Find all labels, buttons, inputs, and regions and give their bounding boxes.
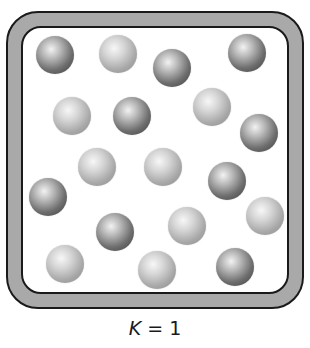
light-sphere-icon: [46, 245, 84, 283]
k-symbol: K: [129, 317, 141, 339]
dark-sphere-icon: [228, 34, 266, 72]
equilibrium-constant-label: K = 1: [0, 317, 310, 339]
dark-sphere-icon: [29, 178, 67, 216]
dark-sphere-icon: [153, 49, 191, 87]
light-sphere-icon: [99, 35, 137, 73]
dark-sphere-icon: [216, 248, 254, 286]
light-sphere-icon: [78, 148, 116, 186]
light-sphere-icon: [246, 197, 284, 235]
light-sphere-icon: [53, 97, 91, 135]
light-sphere-icon: [168, 207, 206, 245]
light-sphere-icon: [138, 251, 176, 289]
light-sphere-icon: [193, 88, 231, 126]
k-value: 1: [169, 317, 181, 339]
dark-sphere-icon: [208, 162, 246, 200]
light-sphere-icon: [144, 148, 182, 186]
dark-sphere-icon: [36, 36, 74, 74]
dark-sphere-icon: [240, 114, 278, 152]
dark-sphere-icon: [96, 213, 134, 251]
dark-sphere-icon: [113, 97, 151, 135]
equals-sign: =: [141, 317, 169, 339]
